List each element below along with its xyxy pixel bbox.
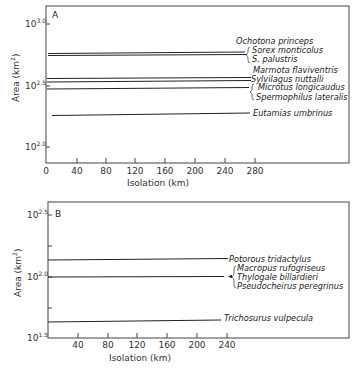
x-tick-label: 200 — [186, 166, 203, 176]
x-tick-label: 80 — [102, 340, 114, 350]
panel-b-y-axis-title: Area (km2) — [11, 249, 23, 297]
y-tick-label: 102.5 — [25, 79, 46, 91]
x-tick-label: 120 — [126, 166, 143, 176]
x-tick-label: 120 — [128, 340, 145, 350]
brace-icon — [250, 84, 254, 100]
panel-a-y-axis-title: Area (km2) — [9, 54, 21, 102]
line-ochotona — [48, 52, 245, 54]
brace-icon — [232, 266, 236, 288]
species-label: Eutamias umbrinus — [253, 108, 333, 118]
x-tick-label: 40 — [72, 340, 84, 350]
y-tick-label: 102.0 — [25, 140, 46, 152]
panel-b-lines — [48, 259, 228, 323]
species-label: S. palustris — [252, 54, 298, 64]
line-sorex — [48, 55, 247, 56]
panel-a-label: A — [52, 10, 59, 20]
x-tick-label: 80 — [100, 166, 112, 176]
y-tick-label: 101.5 — [27, 331, 48, 343]
line-trichosurus — [48, 320, 221, 322]
panel-a: A 103.0 102.5 102.0 Area (km2) 0 40 80 1… — [9, 6, 349, 188]
panel-b-y-axis: 102.5 102.0 101.5 Area (km2) — [11, 208, 52, 343]
line-potorous — [48, 259, 228, 261]
line-sylvilagus — [47, 81, 251, 83]
species-label: Pseudocheirus peregrinus — [237, 281, 344, 291]
panel-a-y-axis: 103.0 102.5 102.0 Area (km2) — [9, 17, 50, 152]
x-tick-label: 240 — [216, 166, 233, 176]
line-microtus — [47, 88, 249, 90]
species-label: Microtus longicaudus — [258, 82, 346, 92]
panel-a-x-axis-title: Isolation (km) — [127, 178, 189, 188]
line-macropus-group — [48, 277, 224, 278]
figure: A 103.0 102.5 102.0 Area (km2) 0 40 80 1… — [0, 0, 358, 369]
x-tick-label: 240 — [218, 340, 235, 350]
brace-icon — [246, 47, 250, 63]
panel-a-lines — [47, 52, 251, 116]
y-tick-label: 102.5 — [27, 208, 48, 220]
y-tick-label: 103.0 — [25, 17, 46, 29]
x-tick-label: 40 — [71, 166, 83, 176]
x-tick-label: 0 — [43, 166, 49, 176]
species-label: Trichosurus vulpecula — [224, 313, 313, 323]
line-eutamias — [52, 113, 250, 116]
panel-b-x-axis-title: Isolation (km) — [109, 353, 171, 363]
panel-b-label: B — [55, 209, 61, 219]
x-tick-label: 160 — [156, 166, 173, 176]
species-label: Spermophilus lateralis — [256, 92, 348, 102]
x-tick-label: 280 — [246, 166, 263, 176]
line-marmota — [47, 78, 251, 79]
arrow-icon — [228, 275, 232, 278]
y-tick-label: 102.0 — [27, 270, 48, 282]
x-tick-label: 160 — [158, 340, 175, 350]
panel-b: B 102.5 102.0 101.5 Area (km2) 40 80 120… — [11, 202, 349, 363]
x-tick-label: 200 — [188, 340, 205, 350]
